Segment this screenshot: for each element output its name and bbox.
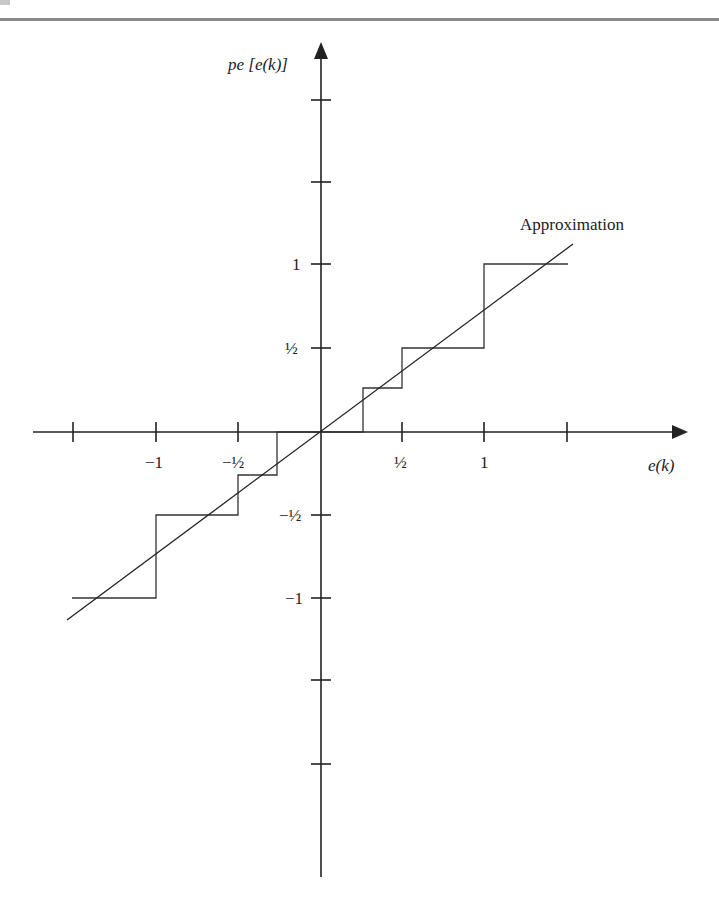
y-tick-label-1: 1 xyxy=(292,255,301,274)
y-axis-label: pe [e(k)] xyxy=(227,55,288,74)
x-tick-label-half: ½ xyxy=(394,453,407,472)
y-tick-label-neg1: −1 xyxy=(285,589,303,608)
x-tick-label-neghalf: −½ xyxy=(222,453,245,472)
staircase-series xyxy=(72,264,568,598)
approximation-label: Approximation xyxy=(520,215,624,234)
x-tick-label-neg1: −1 xyxy=(145,453,163,472)
x-axis-label: e(k) xyxy=(648,456,675,475)
y-axis-arrow-icon xyxy=(314,42,328,59)
y-tick-label-neghalf: −½ xyxy=(279,506,302,525)
x-tick-label-1: 1 xyxy=(480,453,489,472)
quantizer-chart: pe [e(k)] e(k) Approximation −1 −½ ½ 1 1… xyxy=(0,0,719,923)
x-axis-arrow-icon xyxy=(672,425,688,439)
y-tick-label-half: ½ xyxy=(285,339,298,358)
